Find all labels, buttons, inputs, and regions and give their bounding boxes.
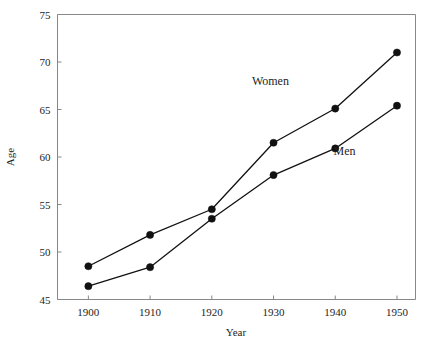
y-axis-tick-labels: 45505560657075 [40,9,52,306]
data-point-women-1910 [146,231,153,238]
series-annotation-men: Men [334,144,356,158]
x-axis-tick-labels: 190019101920193019401950 [77,306,408,318]
x-tick-label: 1940 [324,306,347,318]
y-tick-label: 75 [40,9,52,21]
data-point-women-1920 [208,206,215,213]
y-tick-label: 70 [40,56,52,68]
y-tick-label: 45 [40,294,52,306]
chart-figure: 45505560657075 190019101920193019401950 … [0,0,432,348]
x-tick-label: 1950 [386,306,409,318]
y-tick-label: 60 [40,151,52,163]
data-point-women-1950 [393,49,400,56]
data-point-women-1900 [85,263,92,270]
y-tick-label: 65 [40,104,52,116]
data-point-men-1900 [85,283,92,290]
line-chart: 45505560657075 190019101920193019401950 … [0,0,432,348]
y-tick-label: 55 [40,199,52,211]
data-point-women-1940 [332,105,339,112]
x-tick-label: 1900 [77,306,100,318]
x-axis-ticks [88,296,397,300]
data-point-men-1950 [393,102,400,109]
series-markers [85,49,401,290]
series-annotations: WomenMen [252,74,356,158]
data-point-men-1930 [270,171,277,178]
series-annotation-women: Women [252,74,289,88]
series-line-men [88,106,397,287]
y-axis-title: Age [4,148,16,166]
data-point-men-1920 [208,215,215,222]
series-line-women [88,53,397,267]
axis-frame [58,15,416,300]
series-lines [88,53,397,287]
x-tick-label: 1930 [263,306,286,318]
data-point-women-1930 [270,139,277,146]
x-tick-label: 1910 [139,306,162,318]
y-tick-label: 50 [40,246,52,258]
x-tick-label: 1920 [201,306,224,318]
data-point-men-1910 [146,264,153,271]
x-axis-title: Year [226,326,247,338]
y-axis-ticks [58,15,62,300]
